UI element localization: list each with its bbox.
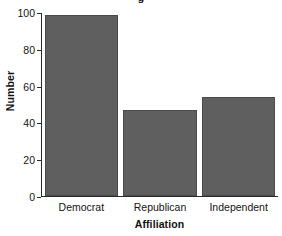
y-axis-label: Number xyxy=(4,59,16,123)
y-axis-tick-mark xyxy=(37,197,41,198)
x-axis-label: Affiliation xyxy=(41,218,278,230)
y-axis-tick-label: 40 xyxy=(23,117,35,129)
y-axis-tick-mark xyxy=(37,50,41,51)
y-axis-tick-label: 20 xyxy=(23,154,35,166)
chart-title-fragment: g xyxy=(0,0,282,3)
bar xyxy=(123,110,197,196)
y-axis-tick-mark xyxy=(37,160,41,161)
x-axis-category-label: Independent xyxy=(202,201,276,213)
y-axis-tick-mark xyxy=(37,87,41,88)
bar xyxy=(45,15,119,196)
plot-area: 020406080100 xyxy=(41,13,278,197)
x-axis-category-label: Democrat xyxy=(45,201,119,213)
bar-chart-figure: g Number 020406080100 DemocratRepublican… xyxy=(0,0,282,236)
y-axis-tick-mark xyxy=(37,13,41,14)
y-axis-tick-label: 100 xyxy=(17,7,35,19)
bar xyxy=(202,97,276,196)
y-axis-tick-label: 80 xyxy=(23,44,35,56)
bar-series xyxy=(42,13,278,196)
x-axis-line xyxy=(41,196,278,197)
y-axis-tick-label: 60 xyxy=(23,81,35,93)
x-axis-category-label: Republican xyxy=(123,201,197,213)
y-axis-tick-mark xyxy=(37,123,41,124)
y-axis-tick-label: 0 xyxy=(29,191,35,203)
